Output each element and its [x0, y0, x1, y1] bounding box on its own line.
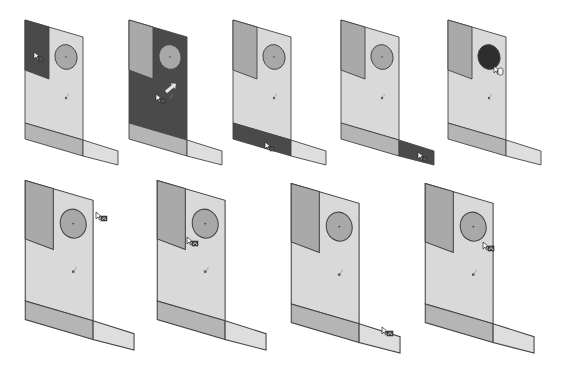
- arrow-pointer-icon: [96, 212, 102, 220]
- part-panel-5: [448, 20, 541, 165]
- top-left-face[interactable]: [448, 20, 472, 79]
- part-panel-8: [291, 183, 400, 353]
- hole-center-mark: [381, 56, 382, 57]
- part-panel-6: [25, 180, 134, 350]
- hole-center-mark: [488, 56, 489, 57]
- face-filter-icon: [423, 157, 427, 161]
- top-left-face[interactable]: [291, 183, 319, 252]
- flange-face[interactable]: [291, 140, 326, 165]
- top-left-face[interactable]: [233, 20, 257, 79]
- flange-face[interactable]: [399, 140, 434, 165]
- flange-face[interactable]: [93, 321, 134, 350]
- hole-center-mark: [273, 56, 274, 57]
- flange-face[interactable]: [83, 140, 118, 165]
- part-panel-3: [233, 20, 326, 165]
- part-panel-2: [129, 20, 222, 165]
- face-filter-icon: [161, 99, 165, 103]
- top-left-face[interactable]: [129, 20, 153, 79]
- hole-center-mark: [72, 223, 74, 225]
- hole-center-mark: [204, 223, 206, 225]
- flange-face[interactable]: [225, 321, 266, 350]
- hole-filter-icon: [498, 68, 503, 75]
- face-filter-icon: [270, 147, 274, 151]
- part-panel-7: [157, 180, 266, 350]
- top-left-face[interactable]: [25, 180, 53, 249]
- face-filter-icon: [39, 57, 43, 61]
- flange-face[interactable]: [506, 140, 541, 165]
- top-left-face[interactable]: [157, 180, 185, 249]
- flange-face[interactable]: [359, 324, 400, 353]
- mouse-cursor-icon: [96, 212, 107, 221]
- sheet-metal-selection-figure: [0, 0, 564, 371]
- hole-center-mark: [169, 56, 170, 57]
- part-panel-4: [341, 20, 434, 165]
- flange-face[interactable]: [187, 140, 222, 165]
- part-panel-1: [25, 20, 118, 165]
- flange-face[interactable]: [493, 324, 534, 353]
- hole-center-mark: [65, 56, 66, 57]
- top-left-face[interactable]: [25, 20, 49, 79]
- top-left-face[interactable]: [425, 183, 453, 252]
- hole-center-mark: [338, 226, 340, 228]
- top-left-face[interactable]: [341, 20, 365, 79]
- hole-center-mark: [472, 226, 474, 228]
- part-panel-9: [425, 183, 534, 353]
